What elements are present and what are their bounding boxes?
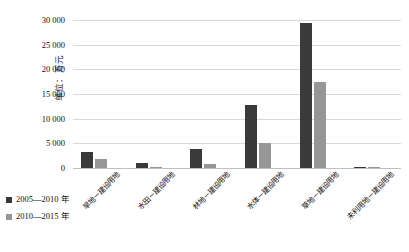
y-tick-label: 5 000 xyxy=(46,138,65,148)
legend-swatch-icon xyxy=(6,197,12,203)
bar xyxy=(259,143,271,168)
bar-group xyxy=(182,20,237,168)
y-tick-label: 10 000 xyxy=(42,114,65,124)
x-tick-label: 林地－建设用地 xyxy=(189,169,231,211)
bar xyxy=(245,105,257,168)
bar xyxy=(300,23,312,168)
y-axis-tick-labels: 05 00010 00015 00020 00025 00030 000 xyxy=(0,20,69,168)
x-tick-label: 未利用地－建设用地 xyxy=(343,169,395,221)
bar xyxy=(136,163,148,168)
bar xyxy=(150,167,162,168)
legend-label: 2010—2015 年 xyxy=(16,210,70,223)
legend-label: 2005—2010 年 xyxy=(16,193,70,206)
plot-area xyxy=(73,20,401,168)
x-tick-label: 水体－建设用地 xyxy=(244,169,286,211)
bar xyxy=(314,82,326,168)
y-tick-label: 0 xyxy=(61,163,65,173)
bar-chart: 单位：万元 05 00010 00015 00020 00025 00030 0… xyxy=(0,0,409,252)
bar-group xyxy=(73,20,128,168)
bar xyxy=(95,159,107,168)
bar xyxy=(204,164,216,168)
legend-item[interactable]: 2010—2015 年 xyxy=(6,210,70,223)
bar xyxy=(368,167,380,168)
bar-group xyxy=(237,20,292,168)
bar-group xyxy=(346,20,401,168)
legend-item[interactable]: 2005—2010 年 xyxy=(6,193,70,206)
legend-swatch-icon xyxy=(6,214,12,220)
bar-group xyxy=(292,20,347,168)
bar xyxy=(354,167,366,168)
legend: 2005—2010 年2010—2015 年 xyxy=(6,193,70,227)
y-tick-label: 25 000 xyxy=(42,40,65,50)
y-tick-label: 15 000 xyxy=(42,89,65,99)
x-tick-label: 水田－建设用地 xyxy=(134,169,176,211)
bar-series-container xyxy=(73,20,401,168)
y-tick-label: 20 000 xyxy=(42,64,65,74)
bar xyxy=(190,149,202,168)
x-tick-label: 旱地－建设用地 xyxy=(80,169,122,211)
x-tick-label: 草地－建设用地 xyxy=(298,169,340,211)
y-tick-label: 30 000 xyxy=(42,15,65,25)
bar-group xyxy=(128,20,183,168)
bar xyxy=(81,152,93,168)
x-axis-tick-labels: 旱地－建设用地水田－建设用地林地－建设用地水体－建设用地草地－建设用地未利用地－… xyxy=(73,169,401,229)
